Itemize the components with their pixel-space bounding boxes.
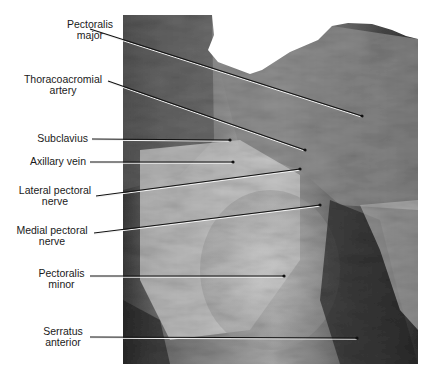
label-serratus-anterior: Serratus anterior bbox=[38, 326, 88, 348]
leader-endpoint bbox=[298, 167, 301, 170]
label-medial-pectoral-nerve: Medial pectoral nerve bbox=[12, 225, 92, 247]
label-axillary-vein: Axillary vein bbox=[15, 156, 86, 167]
label-line: nerve bbox=[12, 236, 92, 247]
label-line: anterior bbox=[38, 337, 88, 348]
leader-endpoint bbox=[318, 203, 321, 206]
leader-endpoint bbox=[282, 274, 285, 277]
leader-endpoint bbox=[355, 336, 358, 339]
label-line: nerve bbox=[15, 196, 95, 207]
label-pectoralis-minor: Pectoralis minor bbox=[34, 268, 89, 290]
label-line: Axillary vein bbox=[15, 156, 86, 167]
leader-endpoint bbox=[231, 160, 234, 163]
label-pectoralis-major: Pectoralis major bbox=[55, 19, 125, 41]
leader-endpoint bbox=[228, 138, 231, 141]
leader-endpoint bbox=[303, 148, 306, 151]
label-line: artery bbox=[18, 85, 108, 96]
label-line: minor bbox=[34, 279, 89, 290]
label-subclavius: Subclavius bbox=[20, 133, 88, 144]
leader-endpoint bbox=[360, 114, 363, 117]
dissection-photo bbox=[123, 10, 423, 370]
label-thoracoacromial-artery: Thoracoacromial artery bbox=[18, 74, 108, 96]
label-lateral-pectoral-nerve: Lateral pectoral nerve bbox=[15, 185, 95, 207]
label-line: Subclavius bbox=[20, 133, 88, 144]
label-line: major bbox=[55, 30, 125, 41]
